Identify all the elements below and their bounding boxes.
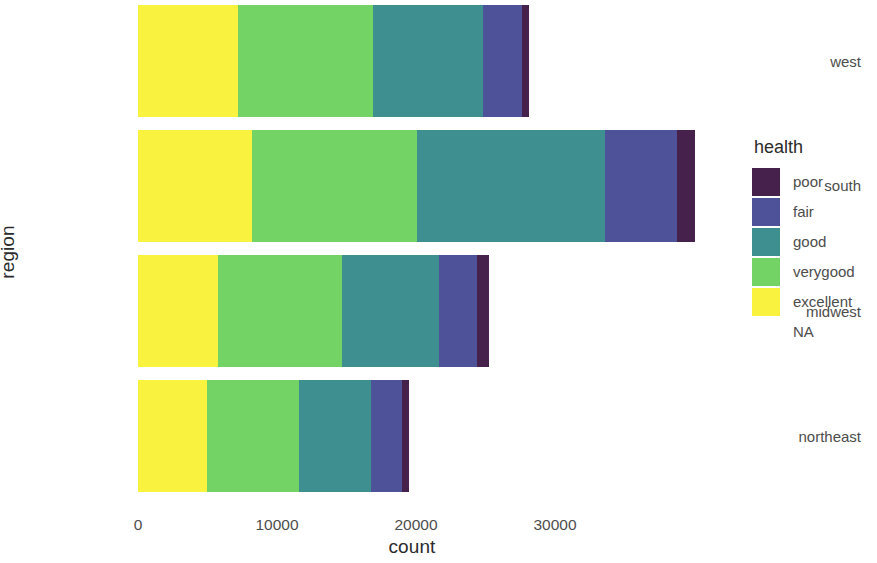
legend-label-verygood: verygood: [793, 263, 855, 280]
bar-segment-west-poor[interactable]: [522, 5, 529, 117]
x-axis-title: count: [389, 536, 436, 558]
bar-segment-northeast-verygood[interactable]: [207, 380, 299, 492]
legend-swatch-excellent: [752, 288, 780, 316]
legend-swatch-poor: [752, 168, 780, 196]
bar-west[interactable]: [138, 5, 529, 117]
x-tick-label-0: 0: [134, 516, 143, 534]
bar-segment-midwest-fair[interactable]: [439, 255, 477, 367]
bar-segment-west-verygood[interactable]: [238, 5, 373, 117]
bar-segment-midwest-verygood[interactable]: [218, 255, 342, 367]
legend-item-verygood[interactable]: verygood: [752, 257, 877, 287]
legend-items: poorfairgoodverygoodexcellentNA: [752, 167, 877, 347]
x-tick-label-10000: 10000: [255, 516, 298, 534]
x-tick-label-30000: 30000: [533, 516, 576, 534]
legend-swatch-verygood: [752, 258, 780, 286]
bar-segment-west-excellent[interactable]: [138, 5, 238, 117]
legend-item-good[interactable]: good: [752, 227, 877, 257]
legend-item-poor[interactable]: poor: [752, 167, 877, 197]
legend-label-excellent: excellent: [793, 293, 852, 310]
legend-label-na: NA: [793, 323, 814, 340]
bar-segment-midwest-excellent[interactable]: [138, 255, 218, 367]
legend-swatch-fair: [752, 198, 780, 226]
bar-segment-midwest-good[interactable]: [342, 255, 439, 367]
bar-south[interactable]: [138, 130, 695, 242]
legend-item-na[interactable]: NA: [752, 317, 877, 347]
bar-segment-south-verygood[interactable]: [252, 130, 417, 242]
bar-segment-northeast-good[interactable]: [299, 380, 371, 492]
bar-segment-west-fair[interactable]: [483, 5, 522, 117]
legend-label-good: good: [793, 233, 826, 250]
plot-panel: [0, 0, 730, 510]
bar-segment-midwest-poor[interactable]: [477, 255, 489, 367]
bar-northeast[interactable]: [138, 380, 409, 492]
legend-title: health: [754, 138, 877, 158]
legend-label-poor: poor: [793, 173, 823, 190]
legend-swatch-na: [752, 318, 780, 346]
stacked-bar-chart: region count west south midwest northeas…: [0, 0, 877, 563]
bar-segment-south-excellent[interactable]: [138, 130, 252, 242]
legend-swatch-good: [752, 228, 780, 256]
legend-item-fair[interactable]: fair: [752, 197, 877, 227]
legend-label-fair: fair: [793, 203, 814, 220]
bar-segment-northeast-poor[interactable]: [402, 380, 409, 492]
legend: health poorfairgoodverygoodexcellentNA: [752, 138, 877, 347]
bar-segment-west-good[interactable]: [373, 5, 483, 117]
bar-segment-south-good[interactable]: [417, 130, 605, 242]
x-tick-label-20000: 20000: [394, 516, 437, 534]
y-tick-label-west: west: [747, 53, 877, 70]
bar-segment-south-poor[interactable]: [677, 130, 695, 242]
bar-segment-northeast-fair[interactable]: [371, 380, 402, 492]
bar-midwest[interactable]: [138, 255, 489, 367]
legend-item-excellent[interactable]: excellent: [752, 287, 877, 317]
y-tick-label-northeast: northeast: [747, 428, 877, 445]
bar-segment-south-fair[interactable]: [605, 130, 677, 242]
bar-segment-northeast-excellent[interactable]: [138, 380, 207, 492]
